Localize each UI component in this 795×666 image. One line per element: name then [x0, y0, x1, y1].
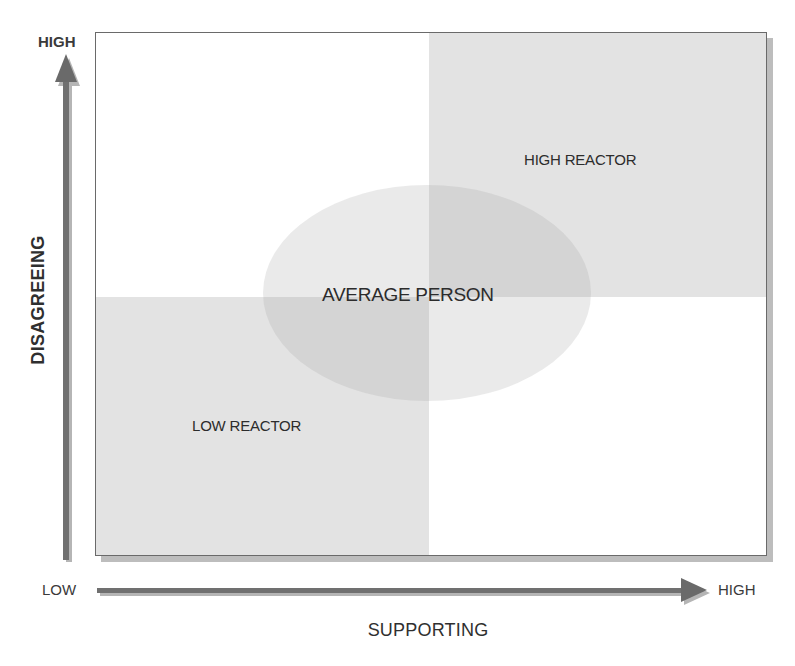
y-axis-arrow-icon — [55, 54, 80, 562]
x-axis-high-label: HIGH — [718, 581, 756, 598]
quadrant-diagram: HIGH REACTOR AVERAGE PERSON LOW REACTOR … — [0, 0, 795, 666]
y-axis-high-label: HIGH — [38, 33, 76, 50]
low-reactor-label: LOW REACTOR — [192, 417, 301, 434]
high-reactor-label: HIGH REACTOR — [524, 151, 636, 168]
y-axis-title: DISAGREEING — [28, 235, 49, 364]
x-axis-low-label: LOW — [42, 581, 76, 598]
average-person-label: AVERAGE PERSON — [322, 284, 494, 306]
plot-area: HIGH REACTOR AVERAGE PERSON LOW REACTOR — [95, 32, 767, 556]
x-axis-arrow-icon — [97, 578, 710, 605]
x-axis-title: SUPPORTING — [368, 620, 489, 641]
